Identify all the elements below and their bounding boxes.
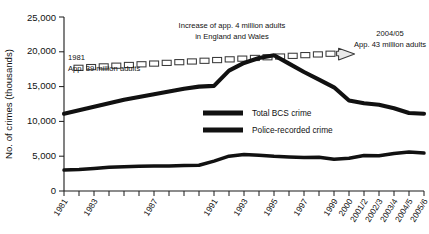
x-tick-label: 1995	[261, 196, 280, 217]
y-tick-label: 20,000	[27, 45, 56, 56]
chart-legend: Total BCS crime Police-recorded crime	[203, 108, 333, 135]
x-tick-label: 1981	[51, 196, 70, 217]
crime-statistics-chart: 0 5,000 10,000 15,000 20,000 25,000 No. …	[0, 0, 429, 234]
population-band-segment	[326, 51, 335, 56]
legend-label: Total BCS crime	[252, 108, 312, 118]
legend-label: Police-recorded crime	[252, 125, 333, 135]
population-band-segment	[288, 53, 297, 58]
series-line-police-recorded-crime	[64, 152, 424, 170]
annotation-line: App. 43 million adults	[354, 40, 426, 49]
x-axis-group: 1981198319871991199319951997199920002001…	[51, 191, 429, 224]
population-band-segment	[187, 59, 196, 64]
y-tick-label: 5,000	[32, 150, 56, 161]
y-tick-label: 15,000	[27, 80, 56, 91]
x-tick-label: 1997	[291, 196, 310, 217]
population-band-segment	[225, 57, 234, 62]
population-band-segment	[313, 52, 322, 57]
legend-swatch	[203, 128, 243, 133]
population-band-segment	[175, 60, 184, 65]
annotation-end-population: 2004/05 App. 43 million adults	[354, 29, 426, 49]
annotation-line: App. 39 million adults	[68, 64, 140, 73]
annotation-line: 2004/05	[376, 29, 403, 38]
x-tick-label: 1991	[201, 196, 220, 217]
population-band-segment	[200, 58, 209, 63]
x-tick-label: 1987	[141, 196, 160, 217]
y-tick-label: 25,000	[27, 12, 56, 23]
population-band-segment	[301, 53, 310, 58]
y-tick-label: 0	[51, 185, 56, 196]
population-band-segment	[213, 57, 222, 62]
x-tick-label: 1983	[81, 196, 100, 217]
annotation-line: Increase of app. 4 million adults	[179, 21, 286, 30]
y-axis-ticks	[59, 17, 64, 191]
legend-swatch	[203, 111, 243, 116]
population-band-arrowhead	[337, 48, 355, 60]
y-axis-title: No. of crimes (thousands)	[3, 49, 14, 159]
annotation-increase-population: Increase of app. 4 million adults in Eng…	[179, 21, 286, 41]
y-tick-label: 10,000	[27, 115, 56, 126]
x-axis-ticks	[64, 191, 424, 196]
y-axis-group: 0 5,000 10,000 15,000 20,000 25,000 No. …	[3, 12, 64, 196]
x-axis-labels: 1981198319871991199319951997199920002001…	[51, 196, 429, 223]
population-band-segment	[150, 61, 159, 66]
x-tick-label: 1993	[231, 196, 250, 217]
population-band-segment	[162, 60, 171, 65]
chart-svg: 0 5,000 10,000 15,000 20,000 25,000 No. …	[0, 0, 429, 234]
legend-item-police-recorded-crime: Police-recorded crime	[203, 125, 333, 135]
annotation-line: 1981	[68, 53, 85, 62]
legend-item-total-bcs-crime: Total BCS crime	[203, 108, 312, 118]
x-tick-label: 1999	[321, 196, 340, 217]
annotation-line: in England and Wales	[195, 32, 269, 41]
